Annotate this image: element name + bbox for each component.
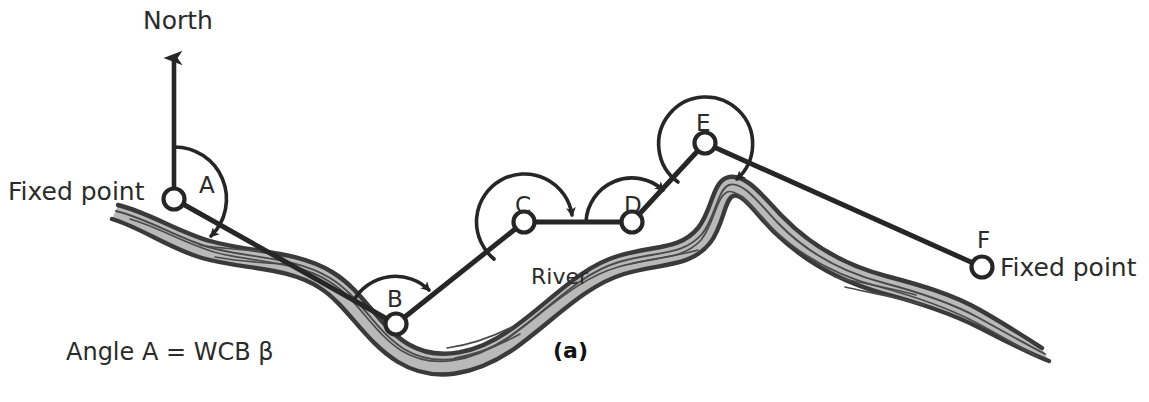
station-label-F: F <box>977 227 990 253</box>
north-label: North <box>143 6 213 35</box>
station-marker-F[interactable] <box>972 257 993 278</box>
station-label-A: A <box>199 172 215 198</box>
station-label-B: B <box>387 286 403 312</box>
fixed-point-left-label: Fixed point <box>8 177 145 206</box>
traverse-leg-B-C <box>396 222 524 324</box>
station-marker-B[interactable] <box>386 314 407 335</box>
fixed-point-right-label: Fixed point <box>1000 253 1137 282</box>
station-marker-A[interactable] <box>164 189 185 210</box>
traverse-leg-D-E <box>632 143 705 222</box>
river-label: River <box>531 264 589 289</box>
station-label-C: C <box>515 192 531 218</box>
station-label-E: E <box>696 110 711 136</box>
station-markers <box>164 133 993 335</box>
station-label-D: D <box>624 192 642 218</box>
figure-caption: (a) <box>553 338 588 363</box>
traverse-diagram-canvas: A B C D E F North Fixed point Fixed poin… <box>0 0 1149 402</box>
angle-equation-label: Angle A = WCB β <box>66 338 274 366</box>
surveying-traverse-figure: A B C D E F North Fixed point Fixed poin… <box>0 0 1149 402</box>
